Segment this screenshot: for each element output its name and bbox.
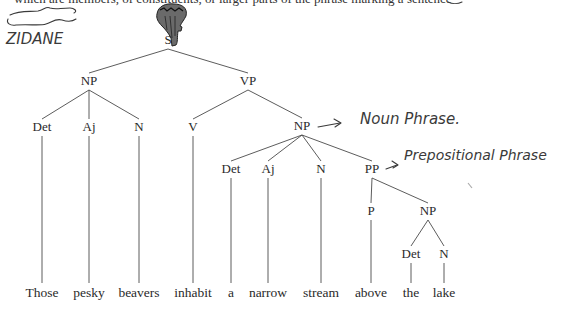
tree-node-aj1: Aj [83,119,96,134]
sentence-word: beavers [118,285,159,300]
tree-node-pp: PP [365,161,379,176]
tree-node-n2: N [316,161,326,176]
tree-node-det1: Det [33,119,52,134]
tree-node-np1: NP [81,73,98,88]
tree-node-aj2: Aj [262,161,275,176]
tree-canvas: which are members, of constituents, or l… [0,0,575,321]
tree-node-v: V [188,119,198,134]
tree-edge [42,90,89,119]
handwritten-scroll-icon [7,7,76,25]
sentence-word: pesky [73,285,105,300]
sentence-word: above [355,285,387,300]
tree-edge [168,49,248,73]
sentence-words: Thosepeskybeaversinhabitanarrowstreamabo… [26,285,456,300]
sentence-word: a [228,285,234,300]
sentence-word: stream [303,285,339,300]
tree-node-np3: NP [420,203,437,218]
name-label: ZIDANE [5,30,64,48]
tree-node-np2: NP [294,118,311,133]
sentence-word: lake [433,285,456,300]
sentence-word: the [403,285,420,300]
tree-edge [411,220,428,246]
leaf-connector-lines [42,136,444,283]
syntax-tree-diagram: which are members, of constituents, or l… [0,0,575,321]
sentence-word: inhabit [174,285,212,300]
tree-edge [248,90,302,118]
tree-edge [371,178,372,203]
prepositional-phrase-annotation: Prepositional Phrase [386,147,547,169]
tree-nodes: SNPVPDetAjNVNPDetAjNPPPNPDetN [33,32,450,261]
sentence-word: narrow [249,285,287,300]
sentence-word: Those [26,285,59,300]
tree-node-n1: N [134,119,144,134]
tree-edge [231,135,302,161]
tree-node-s: S [164,32,171,47]
tree-node-p: P [367,203,374,218]
tree-edge [428,220,444,246]
prepositional-phrase-note: Prepositional Phrase [404,147,547,163]
tree-node-det2: Det [222,161,241,176]
stray-mark [468,183,472,188]
noun-phrase-note: Noun Phrase. [360,110,460,128]
tree-node-n3: N [439,246,449,261]
tree-edge [268,135,302,161]
tree-edge [89,90,139,119]
cut-off-header-text: which are members, of constituents, or l… [14,0,452,6]
noun-phrase-annotation: Noun Phrase. [318,110,460,128]
tree-edge [193,90,248,119]
tree-edge [302,135,372,161]
tree-node-det3: Det [402,246,421,261]
tree-edge [372,178,428,203]
tree-node-vp: VP [240,73,257,88]
tree-edge [89,49,168,73]
